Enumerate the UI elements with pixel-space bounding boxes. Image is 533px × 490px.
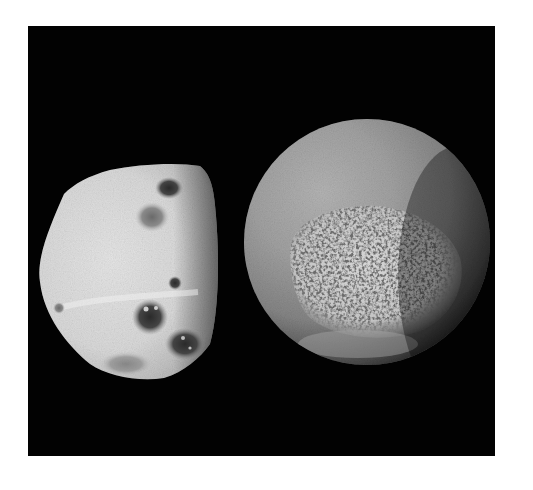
mold-spot — [165, 328, 205, 360]
photograph — [28, 26, 495, 456]
mold-spot — [100, 352, 152, 376]
mold-spot — [53, 302, 65, 314]
mold-spot — [132, 299, 168, 335]
moldy-orange — [244, 119, 495, 406]
mold-spot — [168, 276, 182, 290]
mold-spot — [135, 202, 169, 232]
mold-spot — [155, 177, 183, 199]
moldy-cheese-block — [39, 164, 218, 379]
photo-canvas — [28, 26, 495, 456]
